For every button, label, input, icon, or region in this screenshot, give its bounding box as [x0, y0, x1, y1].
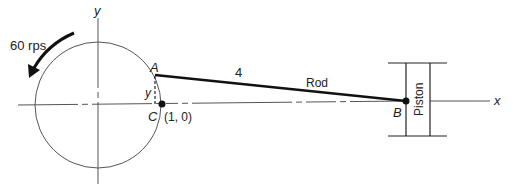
rotation-label: 60 rps: [10, 38, 47, 53]
x-axis: [18, 101, 406, 105]
point-b-label: B: [393, 105, 402, 120]
crank-diagram: y x 60 rps y 4 Rod A C (1, 0) Piston B: [0, 0, 513, 192]
point-a-label: A: [149, 60, 159, 75]
y-segment-label: y: [144, 86, 152, 100]
point-c-coord: (1, 0): [164, 110, 192, 124]
piston-label: Piston: [412, 83, 426, 116]
rod-length-label: 4: [235, 65, 242, 80]
x-axis-label: x: [493, 93, 501, 108]
point-b-dot: [403, 98, 410, 105]
y-axis-label: y: [93, 3, 102, 18]
point-c-dot: [159, 101, 166, 108]
rod-label: Rod: [306, 76, 328, 90]
point-c-label: C: [148, 109, 158, 124]
connecting-rod: [155, 75, 406, 101]
